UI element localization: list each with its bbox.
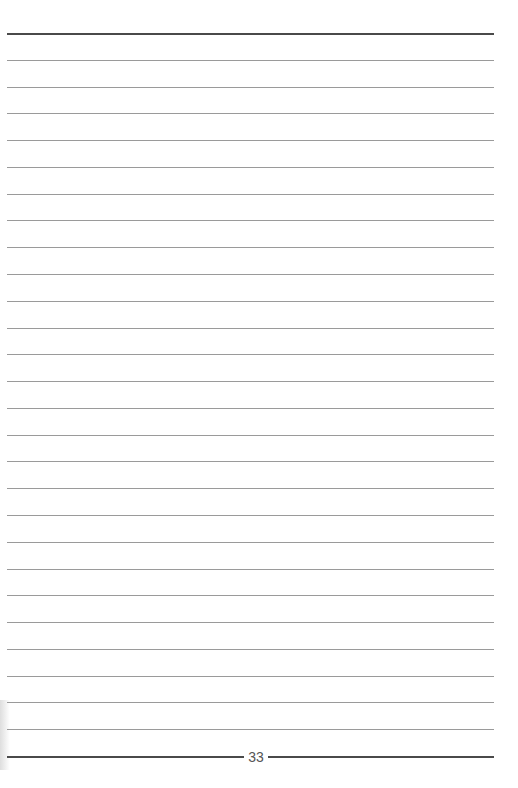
ruled-line <box>7 542 494 543</box>
ruled-line <box>7 113 494 114</box>
ruled-line <box>7 461 494 462</box>
ruled-line <box>7 729 494 730</box>
notebook-page: 33 <box>0 0 518 788</box>
page-number: 33 <box>244 748 268 766</box>
ruled-line <box>7 328 494 329</box>
ruled-line <box>7 702 494 703</box>
ruled-line <box>7 167 494 168</box>
ruled-line <box>7 354 494 355</box>
ruled-line <box>7 381 494 382</box>
ruled-line <box>7 676 494 677</box>
page-edge-shadow <box>0 700 10 770</box>
ruled-line <box>7 140 494 141</box>
ruled-line <box>7 301 494 302</box>
ruled-line <box>7 488 494 489</box>
top-rule <box>7 33 494 35</box>
ruled-line <box>7 595 494 596</box>
ruled-line <box>7 649 494 650</box>
ruled-line <box>7 60 494 61</box>
ruled-line <box>7 408 494 409</box>
ruled-line <box>7 194 494 195</box>
ruled-line <box>7 87 494 88</box>
ruled-line <box>7 515 494 516</box>
ruled-line <box>7 247 494 248</box>
ruled-line <box>7 569 494 570</box>
ruled-line <box>7 274 494 275</box>
ruled-line <box>7 220 494 221</box>
ruled-line <box>7 435 494 436</box>
ruled-line <box>7 622 494 623</box>
